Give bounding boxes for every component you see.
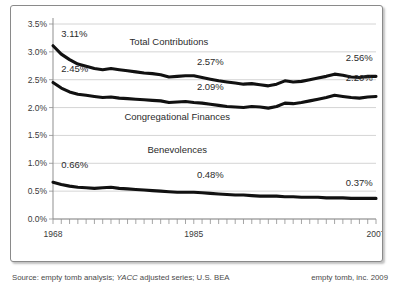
footer-source: Source: empty tomb analysis; YACC adjust… bbox=[12, 273, 230, 282]
value-label-total-contributions-mid: 2.57% bbox=[197, 56, 224, 67]
y-axis-tick-label: 1.0% bbox=[28, 158, 48, 168]
value-label-benevolences-mid: 0.48% bbox=[197, 169, 224, 180]
value-label-total-contributions-end: 2.56% bbox=[346, 52, 373, 63]
y-axis-tick-label: 0.5% bbox=[28, 186, 48, 196]
footer-source-italic: YACC bbox=[116, 273, 137, 282]
series-annotation-total-contributions: Total Contributions bbox=[130, 36, 209, 47]
x-axis-tick-label: 1968 bbox=[44, 229, 63, 239]
value-label-total-contributions-start: 3.11% bbox=[61, 28, 88, 39]
series-line-2 bbox=[53, 182, 376, 198]
chart-footer: Source: empty tomb analysis; YACC adjust… bbox=[12, 270, 388, 284]
value-label-congregational-finances-mid: 2.09% bbox=[197, 81, 224, 92]
series-annotation-congregational-finances: Congregational Finances bbox=[124, 111, 230, 122]
footer-credit: empty tomb, inc. 2009 bbox=[311, 273, 388, 282]
footer-source-suffix: adjusted series; U.S. BEA bbox=[138, 273, 230, 282]
y-axis-tick-label: 0.0% bbox=[28, 214, 48, 224]
footer-source-prefix: Source: empty tomb analysis; bbox=[12, 273, 116, 282]
value-label-congregational-finances-start: 2.45% bbox=[61, 63, 88, 74]
y-axis-tick-label: 2.0% bbox=[28, 103, 48, 113]
chart-plot-area: 0.0%0.5%1.0%1.5%2.0%2.5%3.0%3.5%19681985… bbox=[11, 6, 382, 261]
x-axis-tick-label: 1985 bbox=[184, 229, 203, 239]
chart-frame: 0.0%0.5%1.0%1.5%2.0%2.5%3.0%3.5%19681985… bbox=[10, 5, 383, 262]
y-axis-tick-label: 3.0% bbox=[28, 47, 48, 57]
value-label-benevolences-start: 0.66% bbox=[61, 159, 88, 170]
series-annotation-benevolences: Benevolences bbox=[147, 144, 207, 155]
x-axis-tick-label: 2007 bbox=[367, 229, 382, 239]
line-chart-svg: 0.0%0.5%1.0%1.5%2.0%2.5%3.0%3.5%19681985… bbox=[11, 6, 382, 261]
value-label-benevolences-end: 0.37% bbox=[346, 177, 373, 188]
y-axis-tick-label: 1.5% bbox=[28, 130, 48, 140]
y-axis-tick-label: 2.5% bbox=[28, 75, 48, 85]
value-label-congregational-finances-end: 2.20% bbox=[346, 72, 373, 83]
y-axis-tick-label: 3.5% bbox=[28, 19, 48, 29]
